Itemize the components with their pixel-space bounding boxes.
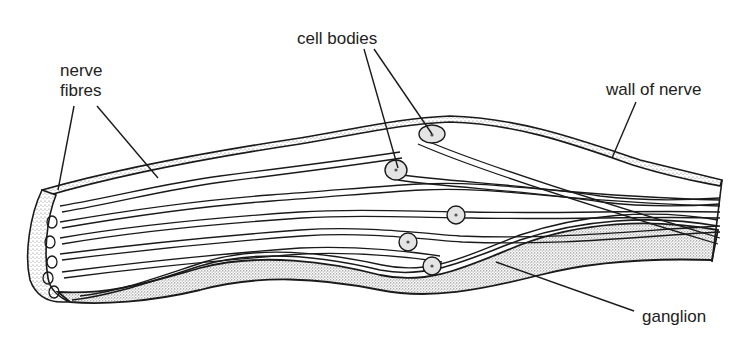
label-nerve-fibres-line1: nerve <box>60 61 120 81</box>
ganglion-sheath <box>58 223 718 303</box>
wall-of-nerve-upper <box>42 116 722 196</box>
diagram-canvas <box>0 0 756 338</box>
label-nerve-fibres: nerve fibres <box>60 61 120 101</box>
label-ganglion: ganglion <box>642 307 706 327</box>
label-cell-bodies: cell bodies <box>297 29 377 49</box>
nerve-cut-end <box>28 190 70 302</box>
label-nerve-fibres-line2: fibres <box>60 81 120 101</box>
nerve-ganglion-diagram: nerve fibres cell bodies wall of nerve g… <box>0 0 756 338</box>
label-wall-of-nerve: wall of nerve <box>606 80 701 100</box>
nerve-right-edge <box>712 180 722 262</box>
